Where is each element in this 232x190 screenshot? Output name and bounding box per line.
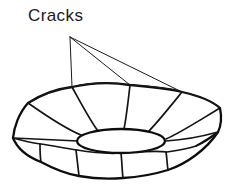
cracks-label: Cracks [28,7,83,24]
leader-line-to-crack-center [70,37,130,85]
bowl-base [77,129,165,153]
front-scallop-seam-1 [40,144,41,162]
bowl-line-drawing [0,0,232,190]
leader-line-to-crack-left [70,37,72,87]
figure-canvas: Cracks [0,0,232,190]
